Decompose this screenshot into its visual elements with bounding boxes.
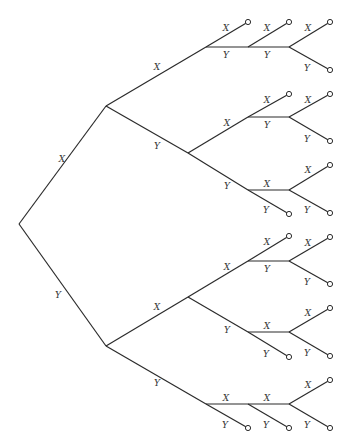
- tree-edge-y: [106, 106, 188, 153]
- edge-label: X: [304, 95, 312, 105]
- tree-edges: [19, 22, 330, 428]
- edge-label: Y: [304, 134, 311, 144]
- leaf-node-circle-icon: [327, 281, 332, 286]
- leaf-node-circle-icon: [286, 91, 291, 96]
- leaf-node-circle-icon: [327, 425, 332, 430]
- tree-edge-x: [19, 106, 106, 224]
- leaf-node-circle-icon: [327, 67, 332, 72]
- edge-label: X: [304, 380, 312, 390]
- leaf-node-circle-icon: [327, 234, 332, 239]
- edge-label: X: [58, 154, 66, 164]
- edge-label: Y: [263, 349, 270, 359]
- tree-edge-y: [188, 297, 248, 332]
- leaf-node-circle-icon: [327, 91, 332, 96]
- leaf-node-circle-icon: [286, 354, 291, 359]
- edge-label: Y: [264, 50, 271, 60]
- edge-label: Y: [264, 264, 271, 274]
- leaf-node-circle-icon: [327, 305, 332, 310]
- leaf-node-circle-icon: [245, 425, 250, 430]
- leaf-nodes: [245, 19, 332, 430]
- leaf-node-circle-icon: [286, 19, 291, 24]
- edge-label: X: [153, 62, 161, 72]
- edge-label: X: [263, 321, 271, 331]
- edge-label: X: [222, 23, 230, 33]
- edge-label: Y: [263, 420, 270, 430]
- edge-label: Y: [224, 181, 231, 191]
- edge-label: Y: [263, 205, 270, 215]
- edge-label: Y: [223, 50, 230, 60]
- edge-label: Y: [304, 420, 311, 430]
- edge-label: X: [222, 393, 230, 403]
- leaf-node-circle-icon: [245, 19, 250, 24]
- edge-label: Y: [264, 120, 271, 130]
- edge-label: X: [263, 237, 271, 247]
- edge-label: Y: [304, 277, 311, 287]
- edge-label: Y: [154, 378, 161, 388]
- tree-edge-y: [19, 224, 106, 346]
- edge-label: X: [304, 165, 312, 175]
- edge-label: X: [263, 23, 271, 33]
- leaf-node-circle-icon: [286, 211, 291, 216]
- edge-label: Y: [304, 63, 311, 73]
- edge-label: X: [263, 179, 271, 189]
- edge-label: Y: [224, 325, 231, 335]
- leaf-node-circle-icon: [327, 210, 332, 215]
- edge-label: Y: [222, 420, 229, 430]
- edge-label: X: [263, 95, 271, 105]
- edge-label: X: [304, 23, 312, 33]
- leaf-node-circle-icon: [327, 19, 332, 24]
- edge-label: X: [223, 262, 231, 272]
- tree-edge-x: [106, 297, 188, 346]
- tree-edge-x: [188, 261, 248, 297]
- edge-label: Y: [304, 205, 311, 215]
- edge-label: Y: [55, 290, 62, 300]
- edge-label: X: [304, 308, 312, 318]
- tree-edge-x: [106, 47, 206, 106]
- leaf-node-circle-icon: [286, 233, 291, 238]
- edge-label: X: [263, 393, 271, 403]
- leaf-node-circle-icon: [286, 425, 291, 430]
- edge-label: X: [153, 302, 161, 312]
- tree-edge-x: [188, 117, 248, 153]
- probability-tree-diagram: XYXYXYXYXYXYXYXYXYXYXYXYXYXYXYXYXYXYXY: [0, 0, 351, 443]
- leaf-node-circle-icon: [327, 353, 332, 358]
- leaf-node-circle-icon: [327, 162, 332, 167]
- edge-labels: XYXYXYXYXYXYXYXYXYXYXYXYXYXYXYXYXYXYXY: [55, 23, 312, 430]
- edge-label: Y: [154, 141, 161, 151]
- tree-edge-y: [106, 346, 206, 404]
- leaf-node-circle-icon: [327, 377, 332, 382]
- tree-edge-y: [188, 153, 248, 190]
- edge-label: Y: [304, 348, 311, 358]
- edge-label: X: [223, 118, 231, 128]
- edge-label: X: [304, 238, 312, 248]
- leaf-node-circle-icon: [327, 138, 332, 143]
